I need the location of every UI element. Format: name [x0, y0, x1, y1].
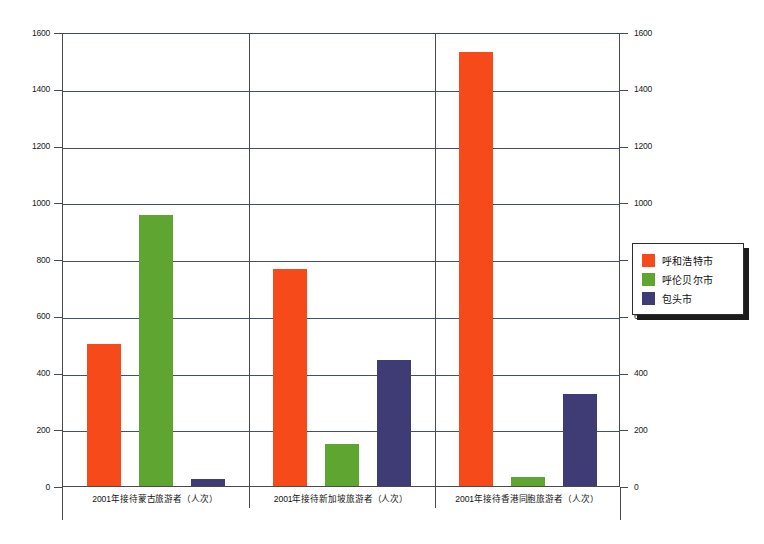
left-axis-tick: [54, 374, 62, 375]
bar-chart: 02004006008001000120014001600 0200400600…: [0, 0, 764, 544]
left-axis-tick-label: 0: [10, 483, 50, 492]
bar: [563, 394, 597, 486]
right-axis-tick-label: 200: [634, 426, 674, 435]
left-axis-tick: [54, 260, 62, 261]
left-axis-tick-label: 200: [10, 426, 50, 435]
right-axis-tick-label: 1600: [634, 29, 674, 38]
right-axis-tick-label: 0: [634, 483, 674, 492]
left-axis-tick-label: 800: [10, 256, 50, 265]
left-axis-tick: [54, 33, 62, 34]
right-axis-tick: [620, 203, 628, 204]
legend-swatch-icon: [642, 273, 655, 286]
right-axis-tick-label: 1200: [634, 142, 674, 151]
bar: [325, 444, 359, 486]
legend-swatch-icon: [642, 254, 655, 267]
left-axis-tick-label: 600: [10, 312, 50, 321]
left-axis-tick: [54, 317, 62, 318]
legend-item-label: 呼伦贝尔市: [662, 272, 713, 287]
bar: [191, 479, 225, 486]
right-axis-tick-label: 1000: [634, 199, 674, 208]
bar: [87, 344, 121, 486]
group-separator: [435, 34, 436, 508]
group-separator: [249, 34, 250, 508]
left-axis-tick-label: 1000: [10, 199, 50, 208]
legend-item[interactable]: 呼和浩特市: [642, 251, 743, 270]
bar: [139, 215, 173, 486]
right-axis-tick: [620, 90, 628, 91]
right-axis-tick: [620, 33, 628, 34]
gridline: [63, 91, 619, 92]
left-axis-tick: [54, 487, 62, 488]
right-axis-tick-label: 1400: [634, 85, 674, 94]
right-axis-tick: [620, 430, 628, 431]
right-axis-tick: [620, 260, 628, 261]
category-label: 2001年接待香港同胞旅游者（人次）: [434, 494, 620, 504]
legend-swatch-icon: [642, 292, 655, 305]
right-axis-tick: [620, 487, 628, 488]
gridline: [63, 148, 619, 149]
left-axis-tick-label: 1400: [10, 85, 50, 94]
right-axis-tick-label: 400: [634, 369, 674, 378]
left-axis-tick: [54, 203, 62, 204]
bar: [459, 52, 493, 486]
left-axis-tick-label: 400: [10, 369, 50, 378]
legend-item-label: 呼和浩特市: [662, 253, 713, 268]
bar: [511, 477, 545, 486]
left-axis-tick-label: 1200: [10, 142, 50, 151]
left-axis-tick-label: 1600: [10, 29, 50, 38]
right-axis-stub: [620, 487, 621, 520]
right-axis-tick: [620, 317, 628, 318]
legend: 呼和浩特市呼伦贝尔市包头市: [632, 243, 744, 315]
bar: [377, 360, 411, 486]
legend-item[interactable]: 包头市: [642, 289, 743, 308]
category-label: 2001年接待新加坡旅游者（人次）: [248, 494, 434, 504]
left-axis-tick: [54, 147, 62, 148]
left-axis-tick: [54, 430, 62, 431]
plot-area: [62, 33, 620, 487]
legend-item[interactable]: 呼伦贝尔市: [642, 270, 743, 289]
left-axis-tick: [54, 90, 62, 91]
legend-item-label: 包头市: [662, 291, 693, 306]
right-axis-tick: [620, 374, 628, 375]
bar: [273, 269, 307, 486]
gridline: [63, 204, 619, 205]
right-axis-tick: [620, 147, 628, 148]
category-label: 2001年接待蒙古旅游者（人次）: [62, 494, 248, 504]
